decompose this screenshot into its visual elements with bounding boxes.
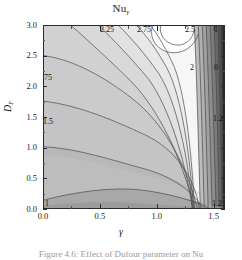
x-tick-label: 0.5	[83, 212, 117, 221]
x-tick-mark-minor	[71, 206, 72, 209]
contour-label: 1	[45, 200, 49, 208]
y-axis-label-main: D	[2, 105, 13, 112]
x-tick-mark-minor	[128, 206, 129, 209]
figure-caption: Figure 4.6: Effect of Dufour parameter o…	[0, 248, 242, 260]
plot-area	[43, 25, 225, 209]
title-main: Nu	[113, 2, 127, 14]
contour-label: 1.2	[213, 115, 223, 123]
x-tick-mark	[43, 204, 44, 209]
y-tick-mark	[221, 86, 225, 87]
y-tick-label: 1.5	[3, 113, 37, 122]
x-tick-mark-minor	[71, 26, 72, 29]
y-tick-mark	[43, 86, 47, 87]
y-tick-mark-minor	[223, 71, 225, 72]
y-tick-mark	[43, 178, 47, 179]
y-tick-label: 0.5	[3, 174, 37, 183]
contour-label: 2	[190, 64, 194, 72]
x-tick-mark	[157, 26, 158, 31]
x-tick-mark	[100, 204, 101, 209]
x-tick-mark-minor	[128, 26, 129, 29]
y-tick-label: 2.0	[3, 82, 37, 91]
contour-label: 0	[214, 64, 218, 72]
y-tick-mark-minor	[43, 71, 45, 72]
y-tick-mark	[221, 209, 225, 210]
x-tick-label: 1.5	[197, 212, 231, 221]
y-tick-mark-minor	[223, 132, 225, 133]
y-tick-mark	[43, 148, 47, 149]
contour-canvas	[44, 26, 224, 208]
y-tick-label: 3.0	[3, 21, 37, 30]
y-tick-label: 1.0	[3, 143, 37, 152]
x-tick-label: 0.0	[26, 212, 60, 221]
y-axis-label: DF	[2, 101, 14, 112]
contour-label: 2.75	[137, 26, 151, 34]
contour-label: 1.2	[212, 200, 222, 208]
x-tick-mark	[43, 26, 44, 31]
contour-label: 2.25	[100, 26, 114, 34]
x-tick-mark-minor	[185, 206, 186, 209]
y-tick-mark-minor	[43, 40, 45, 41]
title-subscript: γ	[126, 8, 129, 16]
y-tick-mark-minor	[223, 102, 225, 103]
contour-label: 2.5	[185, 26, 195, 34]
x-tick-mark	[157, 204, 158, 209]
y-tick-mark	[221, 148, 225, 149]
contour-plot-figure: Nuγ	[0, 0, 242, 260]
x-axis-label: γ	[0, 226, 242, 237]
y-axis-label-subscript: F	[7, 101, 14, 105]
y-tick-mark	[43, 209, 47, 210]
y-tick-label: 2.5	[3, 51, 37, 60]
y-tick-mark	[221, 56, 225, 57]
y-tick-mark-minor	[43, 132, 45, 133]
y-tick-mark-minor	[223, 194, 225, 195]
y-tick-mark	[221, 25, 225, 26]
y-tick-mark-minor	[43, 194, 45, 195]
y-tick-mark-minor	[43, 163, 45, 164]
contour-label: 1.5	[43, 118, 53, 126]
y-tick-mark-minor	[223, 163, 225, 164]
contour-label: 75	[44, 74, 52, 82]
y-tick-mark-minor	[43, 102, 45, 103]
contour-label: 1	[214, 26, 218, 34]
x-tick-label: 1.0	[140, 212, 174, 221]
y-tick-mark	[221, 178, 225, 179]
page-title: Nuγ	[0, 2, 242, 16]
y-tick-mark-minor	[223, 40, 225, 41]
y-tick-mark	[43, 56, 47, 57]
